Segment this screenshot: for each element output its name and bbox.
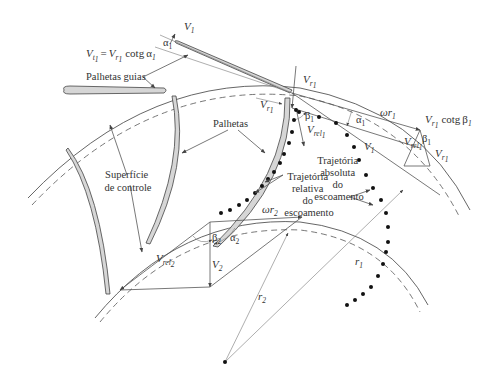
inner-rotor-boundary [95,222,428,322]
label-v1-inlet: V1 [364,140,374,155]
label-omega-r2: ωr2 [262,203,278,218]
label-r1: r1 [355,255,363,270]
guide-vane-lower [64,86,166,94]
label-vr1-top: Vr1 [303,73,316,90]
label-beta1-left: β1 [305,110,314,124]
outer-rotor-boundary [28,86,470,218]
label-vr1-left: Vr1 [260,98,273,115]
label-beta1-right: β1 [422,133,431,147]
label-v1-top: V1 [184,20,194,35]
outlet-velocity-diagram [120,217,302,290]
equation-vt1: Vt1=Vr1cotgα1 [86,47,156,64]
label-v2: V2 [212,258,223,273]
label-r2: r2 [258,290,266,305]
label-alpha1-right: α1 [356,114,366,128]
label-vr1-cotg-beta1: Vr1cotgβ1 [425,113,472,130]
label-guide-vanes: Palhetas guias [86,71,146,82]
label-control-surface: Superfície de controle [105,169,152,193]
label-vrel1-left: Vrel1 [307,123,326,140]
rotor-blades [66,96,290,294]
label-alpha1-top: α1 [163,37,173,51]
turbomachine-velocity-diagram: Vt1=Vr1cotgα1 α1 V1 Palhetas guias Palhe… [0,0,487,391]
label-alpha2: α2 [230,232,240,246]
label-beta2: β2 [212,232,221,246]
label-blades: Palhetas [213,118,248,129]
label-vrel2: Vrel2 [156,252,175,269]
label-vr1-right: Vr1 [435,147,448,164]
